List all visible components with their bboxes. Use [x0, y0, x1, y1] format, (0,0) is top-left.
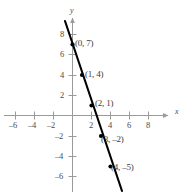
point-label-2-1: (2, 1)	[95, 99, 113, 108]
x-tick-label-8: 8	[146, 121, 150, 130]
x-axis-label: x	[175, 108, 179, 116]
y-tick-label-minus2: –2	[55, 132, 63, 141]
point-label-3-minus2: (3, –2)	[101, 135, 124, 144]
graph-canvas	[0, 0, 185, 196]
x-tick-label-6: 6	[127, 121, 131, 130]
y-tick-label-minus4: –4	[55, 152, 63, 161]
y-axis-label: y	[70, 7, 74, 15]
y-tick-label-minus6: –6	[55, 172, 63, 181]
x-tick-label-4: 4	[108, 121, 112, 130]
x-tick-label-2: 2	[89, 121, 93, 130]
point-label-4-minus5: (4, –5)	[111, 163, 134, 172]
x-tick-label-minus2: –2	[47, 121, 55, 130]
x-tick-label-minus4: –4	[28, 121, 36, 130]
point-label-0-7: (0, 7)	[75, 39, 93, 48]
x-tick-label-minus6: –6	[9, 121, 17, 130]
y-tick-label-6: 6	[60, 50, 64, 59]
point-label-1-4: (1, 4)	[85, 70, 103, 79]
data-point-marker	[89, 103, 93, 107]
coordinate-plane-figure: –6 –4 –2 2 4 6 8 8 6 4 2 –2 –4 –6 y x (0…	[0, 0, 185, 196]
y-tick-label-4: 4	[60, 71, 64, 80]
data-point-marker	[70, 42, 74, 46]
y-tick-label-2: 2	[60, 91, 64, 100]
y-tick-label-8: 8	[60, 30, 64, 39]
data-point-marker	[80, 73, 84, 77]
